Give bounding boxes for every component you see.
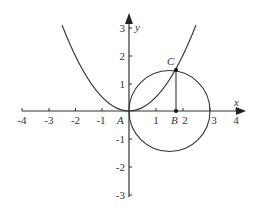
point-c-label: C bbox=[167, 55, 175, 67]
x-tick-label: -1 bbox=[96, 114, 105, 126]
point-b-label: B bbox=[171, 114, 178, 126]
y-tick-label: 2 bbox=[120, 50, 126, 62]
y-tick-label: -3 bbox=[116, 189, 126, 201]
x-tick-label: 4 bbox=[233, 114, 239, 126]
y-axis-label: y bbox=[134, 21, 140, 33]
x-tick-label: -4 bbox=[17, 114, 27, 126]
point-c bbox=[174, 68, 178, 72]
y-tick-label: 1 bbox=[120, 78, 126, 90]
y-tick-label: -1 bbox=[116, 133, 125, 145]
x-tick-label: -3 bbox=[44, 114, 54, 126]
point-b bbox=[174, 109, 178, 113]
x-axis-label: x bbox=[233, 96, 239, 108]
point-a-label: A bbox=[116, 114, 124, 126]
figure: -4 -3 -2 -1 1 2 3 4 3 2 1 -1 -2 -3 x y C… bbox=[0, 0, 254, 211]
y-tick-label: -2 bbox=[116, 161, 125, 173]
y-axis-arrow-icon bbox=[125, 13, 133, 24]
y-tick-label: 3 bbox=[120, 22, 126, 34]
x-tick-label: 1 bbox=[153, 114, 159, 126]
x-tick-label: 2 bbox=[182, 114, 188, 126]
x-tick-label: -2 bbox=[71, 114, 80, 126]
x-tick-label: 3 bbox=[211, 114, 217, 126]
